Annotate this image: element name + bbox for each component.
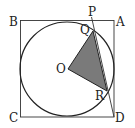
label-b: B — [9, 15, 18, 29]
label-a: A — [115, 15, 125, 29]
label-o: O — [56, 62, 66, 76]
label-d: D — [115, 111, 125, 125]
label-c: C — [9, 111, 18, 125]
geometry-diagram: A B C D O P Q R — [0, 0, 135, 128]
label-q: Q — [80, 23, 90, 37]
label-r: R — [95, 89, 105, 103]
label-p: P — [88, 5, 96, 19]
